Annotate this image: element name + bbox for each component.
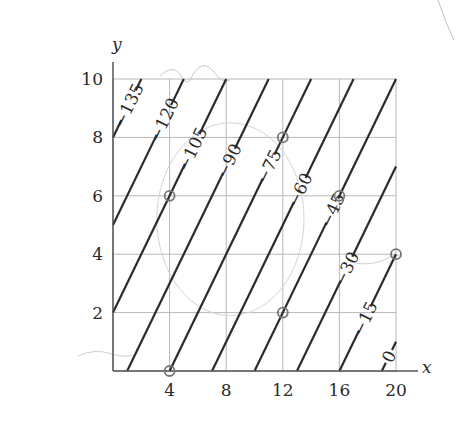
contour-label: −60: [283, 169, 317, 210]
contour-line: [212, 202, 294, 371]
x-tick-label: 4: [164, 380, 175, 400]
x-tick-label: 20: [385, 380, 407, 400]
contour-label: −90: [212, 140, 246, 181]
contour-plot: −135−120−105−90−75−60−45−30−150 48121620…: [0, 0, 456, 421]
contour-line: [392, 342, 396, 350]
contour-lines: −135−120−105−90−75−60−45−30−150: [109, 79, 400, 371]
contour-label: −135: [109, 80, 147, 131]
contour-line: [170, 179, 263, 371]
sketch-mark-corner: [438, 0, 454, 40]
y-tick-label: 4: [92, 244, 103, 264]
contour-label: −15: [348, 298, 382, 339]
contour-line: [382, 363, 386, 371]
contour-label: −105: [173, 124, 211, 175]
contour-line: [235, 79, 269, 149]
x-tick-label: 16: [329, 380, 351, 400]
contour-line: [113, 164, 185, 313]
x-axis-label: x: [422, 357, 432, 377]
contour-line: [255, 222, 327, 371]
y-tick-label: 2: [92, 303, 103, 323]
contour-line: [274, 79, 311, 155]
y-tick-label: 10: [81, 69, 103, 89]
y-tick-label: 6: [92, 186, 103, 206]
sketch-squiggle-left: [78, 351, 135, 356]
y-tick-label: 8: [92, 127, 103, 147]
y-axis-label: y: [111, 34, 122, 54]
contour-line: [127, 173, 223, 371]
contour-line: [339, 330, 359, 371]
contour-label: 0: [378, 347, 401, 365]
contour-line: [306, 79, 354, 178]
contour-line: [113, 135, 157, 225]
contour-line: [297, 281, 341, 371]
x-tick-label: 12: [272, 380, 294, 400]
sketch-squiggle-top: [160, 66, 230, 82]
contour-line: [352, 167, 396, 257]
x-tick-label: 8: [221, 380, 232, 400]
contour-line: [371, 254, 396, 306]
contour-line: [338, 79, 396, 198]
contour-label: −75: [252, 146, 286, 187]
